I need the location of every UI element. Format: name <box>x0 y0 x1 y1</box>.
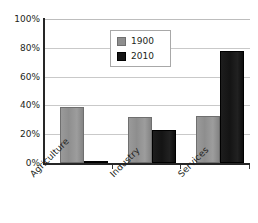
y-axis-tick-label: 40% <box>0 101 40 110</box>
y-axis-tick-label: 20% <box>0 130 40 139</box>
legend-swatch-1900-icon <box>117 37 126 46</box>
legend-label-2010: 2010 <box>131 52 154 61</box>
y-axis-line <box>43 18 45 165</box>
y-axis-tick-label: 80% <box>0 44 40 53</box>
bar-services-2010 <box>220 51 244 163</box>
bar-chart: 100% 80% 60% 40% 20% 0% Agriculture Indu… <box>0 0 258 223</box>
legend-item-1900: 1900 <box>117 35 154 47</box>
y-axis-tick-label: 60% <box>0 73 40 82</box>
legend-label-1900: 1900 <box>131 37 154 46</box>
legend: 1900 2010 <box>110 30 171 67</box>
bar-industry-2010 <box>152 130 176 163</box>
x-axis-line <box>43 163 250 165</box>
y-axis-tick-label: 100% <box>0 15 40 24</box>
legend-swatch-2010-icon <box>117 52 126 61</box>
legend-item-2010: 2010 <box>117 50 154 62</box>
x-axis-tick <box>249 165 250 169</box>
gridline-100 <box>44 19 250 20</box>
